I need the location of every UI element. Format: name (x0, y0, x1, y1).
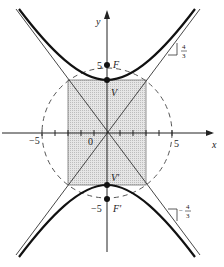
vertex-bottom-point (104, 182, 110, 188)
x-axis-arrow-icon (206, 130, 214, 136)
focus-bottom-point (104, 196, 110, 202)
y-tick-5-label: 5 (97, 60, 102, 71)
focus-bottom-label: F′ (112, 203, 122, 214)
vertex-top-point (104, 77, 110, 83)
svg-text:3: 3 (182, 52, 186, 60)
svg-text:3: 3 (186, 212, 190, 220)
origin-label: 0 (88, 136, 93, 147)
y-axis-arrow-icon (104, 10, 110, 19)
focus-top-point (104, 62, 110, 68)
vertex-bottom-label: V′ (111, 172, 120, 183)
x-tick-neg5-label: −5 (29, 135, 40, 146)
svg-text:4: 4 (182, 43, 186, 51)
y-tick-neg5-label: −5 (91, 203, 102, 214)
hyperbola-figure: y x 5 F V 0 −5 5 V′ −5 F′ 4 3 − 4 3 (0, 0, 224, 267)
slope-positive-fraction: 4 3 (181, 43, 187, 60)
svg-text:4: 4 (186, 203, 190, 211)
slope-negative-fraction: − 4 3 (179, 203, 191, 220)
svg-text:−: − (179, 207, 183, 215)
slope-triangle-positive (168, 43, 177, 55)
x-tick-5-label: 5 (174, 138, 179, 149)
focus-top-label: F (112, 59, 120, 70)
x-axis-label: x (211, 139, 217, 150)
y-axis-label: y (95, 16, 101, 27)
slope-triangle-negative (168, 209, 177, 221)
